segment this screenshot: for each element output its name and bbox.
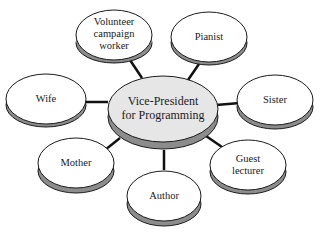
node-label-line: Volunteer — [94, 16, 135, 27]
node-pianist: Pianist — [171, 12, 247, 65]
center-label-line: for Programming — [122, 108, 205, 122]
node-label-line: Author — [149, 190, 179, 201]
node-wife: Wife — [6, 74, 86, 127]
node-volunteer: Volunteer campaign worker — [76, 10, 152, 63]
node-label-line: Mother — [61, 157, 92, 168]
node-center: Vice-President for Programming — [108, 76, 218, 149]
node-label-line: lecturer — [232, 165, 265, 176]
node-label-line: campaign — [94, 28, 136, 39]
node-label-line: Sister — [263, 94, 287, 105]
node-label-line: Wife — [36, 93, 57, 104]
connector-guest-lecturer — [206, 136, 222, 147]
connector-volunteer — [130, 60, 142, 78]
node-guest-lecturer: Guest lecturer — [210, 140, 286, 194]
connector-pianist — [188, 64, 199, 80]
connector-sister — [216, 103, 240, 105]
node-label-line: Guest — [236, 153, 261, 164]
node-sister: Sister — [237, 75, 313, 129]
node-author: Author — [127, 171, 201, 226]
node-label-line: worker — [99, 40, 129, 51]
node-label-line: Pianist — [195, 31, 224, 42]
node-mother: Mother — [38, 138, 114, 193]
center-label-line: Vice-President — [128, 94, 199, 108]
role-diagram: Volunteer campaign worker Pianist Wife S… — [0, 0, 320, 237]
